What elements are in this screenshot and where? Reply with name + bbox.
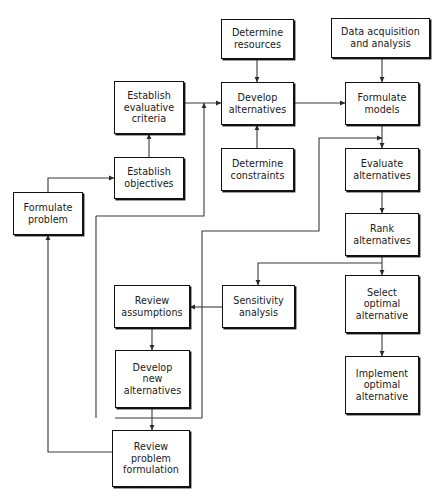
connector-group: [48, 58, 382, 452]
node-determine_resources[interactable]: Determine resources: [221, 19, 294, 59]
node-sensitivity_analysis[interactable]: Sensitivity analysis: [222, 285, 295, 328]
node-label-develop_alternatives: Develop alternatives: [226, 92, 290, 115]
node-select_optimal[interactable]: Select optimal alternative: [345, 275, 419, 333]
edge-problem-to-objectives: [48, 178, 114, 192]
flowchart-canvas: Determine resourcesData acquisition and …: [0, 0, 437, 497]
node-label-develop_new: Develop new alternatives: [121, 362, 185, 397]
node-develop_alternatives[interactable]: Develop alternatives: [221, 82, 294, 125]
node-evaluate_alternatives[interactable]: Evaluate alternatives: [345, 148, 419, 191]
node-label-select_optimal: Select optimal alternative: [353, 287, 412, 322]
node-label-evaluate_alternatives: Evaluate alternatives: [350, 158, 414, 181]
node-label-sensitivity_analysis: Sensitivity analysis: [230, 295, 287, 318]
node-establish_objectives[interactable]: Establish objectives: [114, 157, 184, 199]
node-label-implement_optimal: Implement optimal alternative: [353, 368, 412, 403]
node-label-review_problem: Review problem formulation: [120, 441, 182, 476]
node-label-establish_criteria: Establish evaluative criteria: [121, 90, 178, 125]
node-review_problem[interactable]: Review problem formulation: [112, 430, 190, 487]
node-label-establish_objectives: Establish objectives: [121, 166, 176, 189]
node-label-rank_alternatives: Rank alternatives: [350, 223, 414, 246]
node-rank_alternatives[interactable]: Rank alternatives: [345, 213, 419, 256]
node-formulate_problem[interactable]: Formulate problem: [13, 192, 83, 235]
node-label-formulate_problem: Formulate problem: [21, 202, 76, 225]
node-label-data_acquisition: Data acquisition and analysis: [338, 26, 423, 49]
node-label-determine_constraints: Determine constraints: [228, 158, 288, 181]
node-data_acquisition[interactable]: Data acquisition and analysis: [331, 18, 430, 58]
node-implement_optimal[interactable]: Implement optimal alternative: [345, 356, 419, 414]
node-determine_constraints[interactable]: Determine constraints: [221, 148, 294, 191]
node-label-review_assumptions: Review assumptions: [118, 295, 185, 318]
node-formulate_models[interactable]: Formulate models: [345, 82, 419, 125]
node-label-formulate_models: Formulate models: [355, 92, 410, 115]
node-review_assumptions[interactable]: Review assumptions: [114, 285, 190, 328]
node-label-determine_resources: Determine resources: [229, 27, 286, 50]
node-establish_criteria[interactable]: Establish evaluative criteria: [114, 81, 184, 134]
edge-review-prob-to-problem: [48, 235, 112, 452]
node-develop_new[interactable]: Develop new alternatives: [115, 350, 190, 408]
